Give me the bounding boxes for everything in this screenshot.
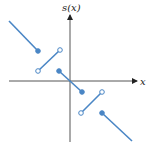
- segment: [38, 50, 60, 71]
- segment: [9, 21, 38, 51]
- open-endpoint: [79, 111, 84, 116]
- closed-endpoint: [100, 111, 105, 116]
- x-axis-label: x: [140, 76, 146, 87]
- closed-endpoint: [36, 49, 41, 54]
- closed-endpoint: [80, 90, 85, 95]
- function-graph: s(x) x: [0, 0, 148, 142]
- open-endpoint: [58, 48, 63, 53]
- closed-endpoint: [57, 69, 62, 74]
- open-endpoint: [36, 69, 41, 74]
- segment: [102, 113, 132, 141]
- segment: [81, 92, 102, 113]
- y-axis-label: s(x): [62, 2, 81, 13]
- open-endpoint: [100, 90, 105, 95]
